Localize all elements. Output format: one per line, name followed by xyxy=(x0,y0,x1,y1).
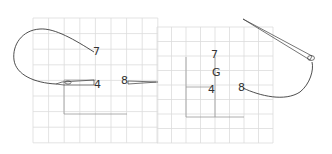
left-line-from-8 xyxy=(128,81,158,84)
point-label-7: 7 xyxy=(211,48,218,61)
left-panel: 748 xyxy=(14,18,158,143)
point-label-4: 4 xyxy=(208,83,215,96)
right-trajectory-curve xyxy=(243,62,313,97)
right-labels: 7G48 xyxy=(208,48,245,96)
point-label-8: 8 xyxy=(121,74,128,87)
right-panel: 7G48 xyxy=(157,19,315,143)
right-needle-tool xyxy=(243,19,315,61)
point-label-8: 8 xyxy=(238,81,245,94)
left-trajectory-curve xyxy=(14,29,94,84)
diagram-canvas: 748 7G48 xyxy=(0,0,332,154)
point-label-7: 7 xyxy=(93,45,100,58)
point-label-g: G xyxy=(212,66,221,79)
point-label-4: 4 xyxy=(94,78,101,91)
left-labels: 748 xyxy=(93,45,128,91)
